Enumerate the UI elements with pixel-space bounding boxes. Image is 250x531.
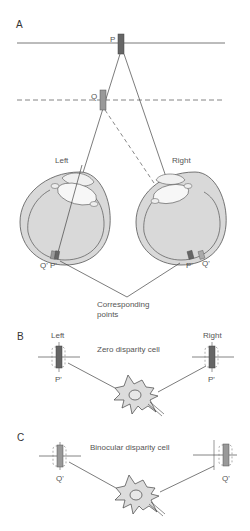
panel-b-right-point: P' [208,375,215,384]
panel-b-left-label: Left [51,331,65,340]
panel-c-left-point: Q' [56,474,64,483]
panel-b-left-axon [68,363,115,388]
binocular-disparity-neuron [115,475,165,516]
panel-c-right-axon [160,466,214,492]
right-retina-q-label: Q' [202,259,210,268]
left-eye-label: Left [55,156,69,165]
corresponding-leader-right [127,263,180,297]
point-p-marker [118,34,124,54]
panel-c-label: C [17,432,24,443]
corresponding-caption-line1: Corresponding [97,300,149,309]
panel-b-right-label: Right [203,331,222,340]
panel-b-left-receptive-field [38,342,80,372]
right-eye-label: Right [172,156,191,165]
panel-c-title: Binocular disparity cell [90,443,170,452]
left-eye [20,172,110,265]
point-q-label: Q [91,92,97,101]
panel-c-right-point: Q' [222,474,230,483]
panel-a-label: A [16,19,23,30]
corresponding-leader-left [60,261,127,297]
panel-b-right-axon [158,366,206,392]
panel-b-right-receptive-field [192,342,234,372]
panel-b-left-point: P' [55,375,62,384]
corresponding-caption-line2: points [97,310,118,319]
panel-c-right-receptive-field [193,440,237,470]
point-q-marker [100,90,106,110]
point-p-label: P [110,35,115,44]
panel-c-left-receptive-field [39,442,81,470]
panel-b-title: Zero disparity cell [97,345,160,354]
zero-disparity-neuron [114,375,164,416]
left-retina-q-label: Q' [40,261,48,270]
panel-b-label: B [17,331,24,342]
binocular-disparity-diagram: A P Q Left Right Q' P' P' Q' Correspo [0,0,250,531]
right-eye [136,172,226,265]
left-retina-p-label: P' [50,261,57,270]
panel-c-left-axon [69,462,116,488]
right-retina-p-label: P' [186,261,193,270]
